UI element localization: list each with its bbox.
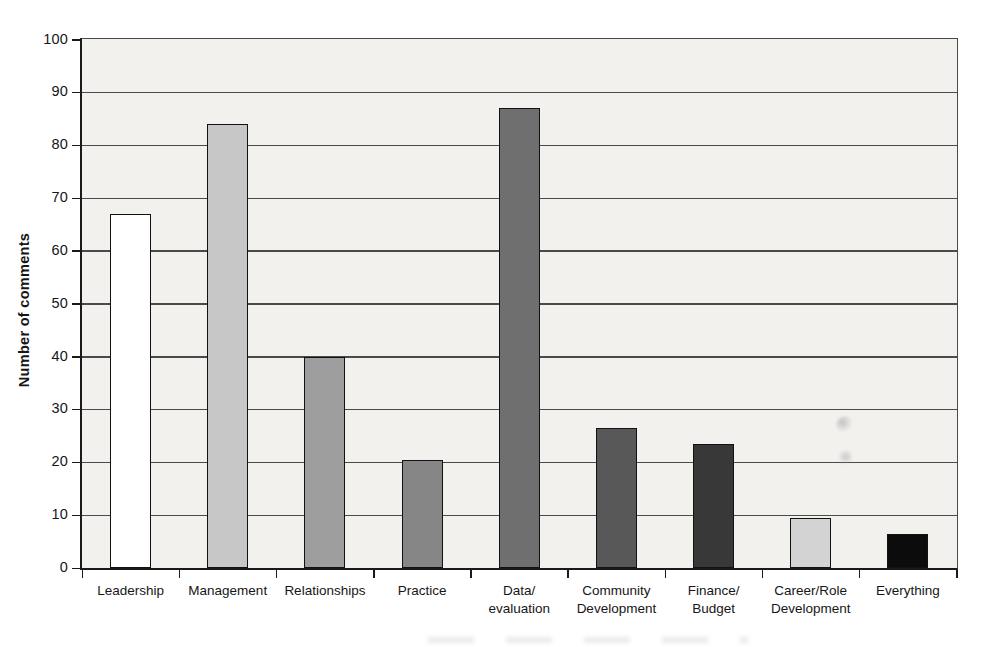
y-tick-label-80: 80	[0, 136, 68, 152]
x-category-label-line: Development	[568, 600, 665, 618]
x-category-label-practice: Practice	[374, 582, 471, 600]
bar-everything	[887, 534, 928, 568]
bar-data-evaluation	[499, 108, 540, 568]
bar-community-development	[596, 428, 637, 568]
y-tick-label-90: 90	[0, 83, 68, 99]
y-tick-label-10: 10	[0, 506, 68, 522]
x-category-label-finance-budget: Finance/Budget	[665, 582, 762, 618]
x-category-label-line: Career/Role	[762, 582, 859, 600]
y-tick-80	[72, 145, 80, 147]
y-tick-0	[72, 568, 80, 570]
y-tick-label-20: 20	[0, 453, 68, 469]
scan-artifact-cropped-caption	[428, 637, 748, 643]
plot-area	[80, 38, 958, 570]
bar-career-role-development	[790, 518, 831, 568]
y-tick-10	[72, 515, 80, 517]
x-category-label-line: Community	[568, 582, 665, 600]
x-tick-9	[956, 570, 958, 578]
x-tick-1	[179, 570, 181, 578]
y-tick-70	[72, 198, 80, 200]
y-tick-label-30: 30	[0, 400, 68, 416]
x-category-label-line: Finance/	[665, 582, 762, 600]
y-tick-label-0: 0	[0, 559, 68, 575]
y-tick-20	[72, 462, 80, 464]
y-tick-100	[72, 39, 80, 41]
x-tick-8	[859, 570, 861, 578]
x-category-label-line: Relationships	[276, 582, 373, 600]
x-category-label-line: Budget	[665, 600, 762, 618]
x-tick-0	[82, 570, 84, 578]
bar-management	[207, 124, 248, 568]
y-tick-90	[72, 92, 80, 94]
x-category-label-line: Everything	[859, 582, 956, 600]
x-category-label-data-evaluation: Data/evaluation	[471, 582, 568, 618]
bar-leadership	[110, 214, 151, 568]
y-tick-label-70: 70	[0, 189, 68, 205]
y-tick-60	[72, 250, 80, 252]
y-tick-label-50: 50	[0, 295, 68, 311]
x-tick-7	[762, 570, 764, 578]
bar-relationships	[304, 357, 345, 568]
y-tick-40	[72, 356, 80, 358]
x-tick-5	[567, 570, 569, 578]
y-tick-30	[72, 409, 80, 411]
x-category-label-career-role-development: Career/RoleDevelopment	[762, 582, 859, 618]
x-tick-3	[373, 570, 375, 578]
x-category-label-everything: Everything	[859, 582, 956, 600]
y-tick-label-100: 100	[0, 31, 68, 47]
x-category-label-management: Management	[179, 582, 276, 600]
y-tick-label-40: 40	[0, 348, 68, 364]
y-tick-50	[72, 303, 80, 305]
x-category-label-line: Data/	[471, 582, 568, 600]
x-tick-6	[665, 570, 667, 578]
x-tick-4	[470, 570, 472, 578]
x-category-label-line: Development	[762, 600, 859, 618]
bar-chart-figure: Number of comments 010203040506070809010…	[0, 0, 993, 647]
x-category-label-community-development: CommunityDevelopment	[568, 582, 665, 618]
x-category-label-relationships: Relationships	[276, 582, 373, 600]
x-tick-2	[276, 570, 278, 578]
x-category-label-line: Management	[179, 582, 276, 600]
y-tick-label-60: 60	[0, 242, 68, 258]
gridline-90	[82, 92, 957, 94]
x-category-label-line: Practice	[374, 582, 471, 600]
bar-finance-budget	[693, 444, 734, 568]
bar-practice	[402, 460, 443, 568]
x-category-label-line: Leadership	[82, 582, 179, 600]
x-category-label-leadership: Leadership	[82, 582, 179, 600]
x-category-label-line: evaluation	[471, 600, 568, 618]
